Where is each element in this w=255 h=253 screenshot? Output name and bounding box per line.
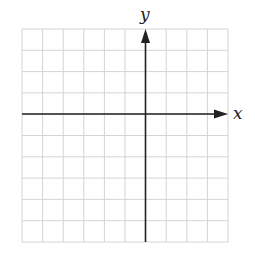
grid-lines: [22, 29, 228, 242]
coordinate-grid: x y: [0, 0, 255, 253]
y-axis-label: y: [139, 4, 150, 24]
y-axis-arrow-icon: [141, 29, 150, 43]
x-axis-label: x: [233, 103, 243, 123]
x-axis-arrow-icon: [214, 110, 228, 119]
